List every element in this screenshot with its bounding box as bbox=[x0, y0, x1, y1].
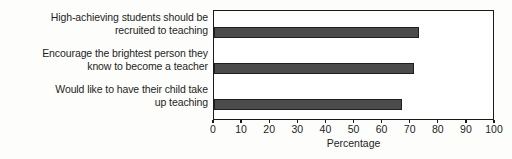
x-tick-label-7: 70 bbox=[404, 123, 416, 135]
category-label-2-line2: up teaching bbox=[0, 96, 208, 109]
x-tick-label-0: 0 bbox=[210, 123, 216, 135]
category-label-0-line1: High-achieving students should be bbox=[0, 11, 208, 24]
bar-0 bbox=[214, 27, 419, 38]
category-label-1: Encourage the brightest person they know… bbox=[0, 47, 208, 73]
x-tick-label-2: 20 bbox=[263, 123, 275, 135]
x-tick-label-8: 80 bbox=[432, 123, 444, 135]
bars-container bbox=[214, 11, 493, 119]
x-tick-label-6: 60 bbox=[376, 123, 388, 135]
category-label-2: Would like to have their child take up t… bbox=[0, 83, 208, 109]
category-label-0: High-achieving students should be recrui… bbox=[0, 11, 208, 37]
x-tick-label-3: 30 bbox=[291, 123, 303, 135]
x-axis-title: Percentage bbox=[213, 137, 494, 149]
x-tick-label-5: 50 bbox=[348, 123, 360, 135]
x-tick-label-4: 40 bbox=[320, 123, 332, 135]
category-label-0-line2: recruited to teaching bbox=[0, 24, 208, 37]
category-label-1-line2: know to become a teacher bbox=[0, 60, 208, 73]
plot-area bbox=[213, 10, 494, 120]
category-label-2-line1: Would like to have their child take bbox=[0, 83, 208, 96]
x-tick-label-10: 100 bbox=[485, 123, 503, 135]
bar-2 bbox=[214, 99, 402, 110]
x-axis: 0102030405060708090100 bbox=[213, 120, 494, 138]
horizontal-bar-chart: High-achieving students should be recrui… bbox=[0, 0, 512, 159]
x-tick-label-1: 10 bbox=[235, 123, 247, 135]
category-label-1-line1: Encourage the brightest person they bbox=[0, 47, 208, 60]
bar-1 bbox=[214, 63, 414, 74]
x-tick-label-9: 90 bbox=[460, 123, 472, 135]
category-axis-labels: High-achieving students should be recrui… bbox=[0, 10, 211, 120]
